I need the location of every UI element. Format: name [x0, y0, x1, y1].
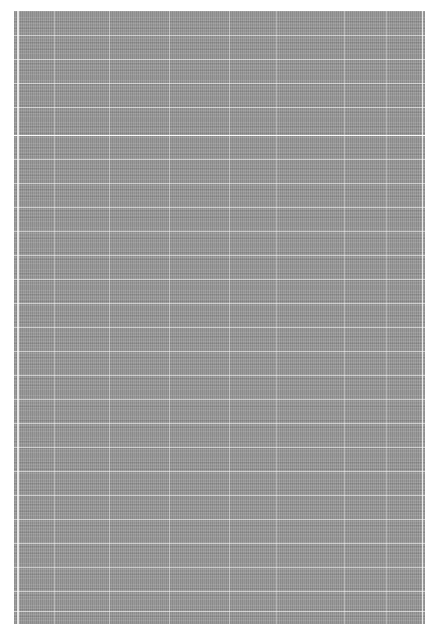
grid-row-line [14, 35, 425, 36]
grid-row-line [14, 255, 425, 256]
grid-column-line [276, 11, 277, 624]
grid-row-line [14, 471, 425, 472]
grid-row-line [14, 519, 425, 520]
grid-row-line [14, 591, 425, 592]
grid-column-line [54, 11, 55, 624]
grid-row-line [14, 135, 425, 136]
grid-row-line [14, 327, 425, 328]
grid-row-line [14, 611, 425, 612]
grid-column-line [344, 11, 345, 624]
grid-row-line [14, 231, 425, 232]
grid-row-line [14, 399, 425, 400]
left-margin-strip [17, 11, 19, 624]
grid-row-line [14, 447, 425, 448]
page [0, 0, 437, 638]
scanned-document-area [14, 11, 425, 624]
grid-row-line [14, 351, 425, 352]
grid-row-line [14, 83, 425, 84]
grid-row-line [14, 423, 425, 424]
grid-column-line [169, 11, 170, 624]
grid-row-line [14, 107, 425, 108]
grid-row-line [14, 207, 425, 208]
grid-row-line [14, 303, 425, 304]
grid-row-line [14, 59, 425, 60]
right-margin-line [422, 11, 423, 624]
grid-row-line [14, 567, 425, 568]
grid-row-line [14, 279, 425, 280]
grid-column-line [386, 11, 387, 624]
grid-row-line [14, 495, 425, 496]
grid-column-line [109, 11, 110, 624]
grid-row-line [14, 183, 425, 184]
grid-row-line [14, 375, 425, 376]
grid-row-line [14, 543, 425, 544]
grid-column-line [229, 11, 230, 624]
grid-row-line [14, 159, 425, 160]
